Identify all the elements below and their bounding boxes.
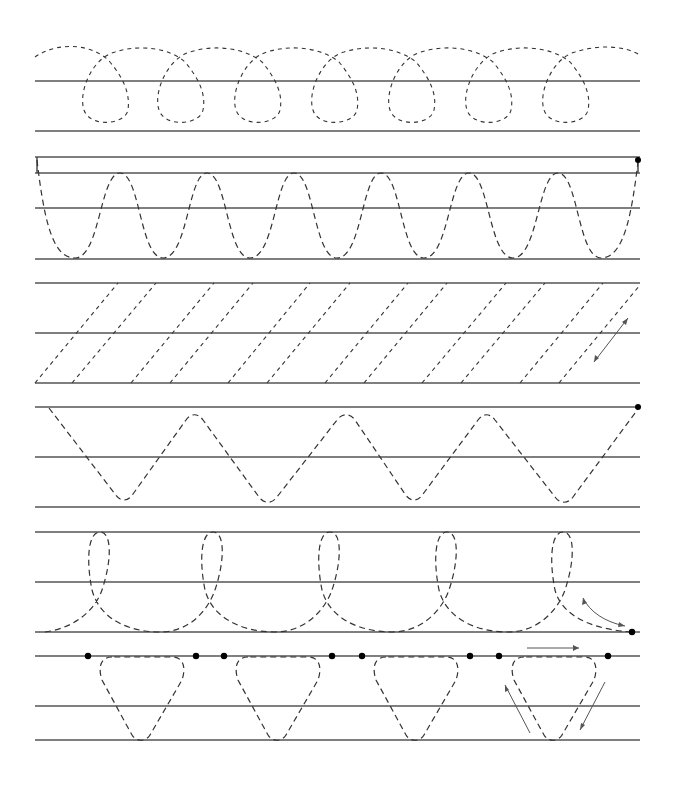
row-4-zigzag xyxy=(35,404,641,507)
row-2-end-dot xyxy=(635,157,641,163)
row-6-triangle-traces xyxy=(100,657,596,740)
row-3-direction-arrow-icon xyxy=(594,318,628,362)
row-1-cursive-loops xyxy=(35,46,640,131)
tracing-worksheet xyxy=(0,0,673,788)
row-4-end-dot xyxy=(635,404,641,410)
row-1-loop-trace xyxy=(35,46,640,122)
row-2-sine-waves xyxy=(35,157,641,259)
row-2-wave-trace xyxy=(37,160,638,258)
row-3-diagonal-slashes xyxy=(35,283,640,383)
row-5-end-dot xyxy=(629,629,635,635)
row-5-tall-loops xyxy=(35,532,640,635)
row-6-inverted-triangles xyxy=(35,645,640,740)
row-4-zigzag-trace xyxy=(49,408,638,502)
